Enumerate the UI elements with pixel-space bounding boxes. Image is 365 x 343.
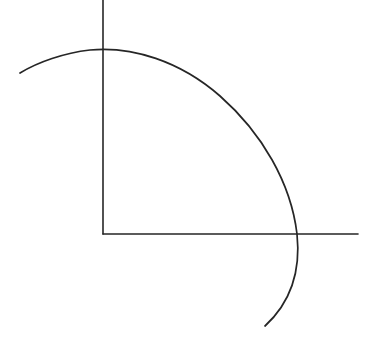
diagram-svg: [0, 0, 365, 343]
canvas-background: [0, 0, 365, 343]
figure-canvas: [0, 0, 365, 343]
